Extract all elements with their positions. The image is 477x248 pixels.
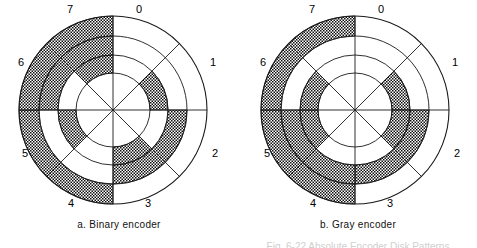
sector-label-5: 5 bbox=[17, 148, 33, 159]
sector-label-7: 7 bbox=[62, 4, 78, 15]
sector-label-2: 2 bbox=[449, 148, 465, 159]
sector-label-2: 2 bbox=[207, 148, 223, 159]
gray-encoder-caption: b. Gray encoder bbox=[239, 219, 477, 230]
encoder-segment bbox=[300, 71, 329, 110]
binary-encoder-caption: a. Binary encoder bbox=[0, 219, 238, 230]
encoder-segment bbox=[58, 110, 87, 149]
sector-label-0: 0 bbox=[373, 4, 389, 15]
sector-label-3: 3 bbox=[140, 198, 156, 209]
sector-label-5: 5 bbox=[259, 148, 275, 159]
sector-label-7: 7 bbox=[304, 4, 320, 15]
gray-encoder-disk: 01234567 bbox=[239, 0, 477, 218]
binary-disk-graphic bbox=[0, 0, 238, 218]
sector-label-4: 4 bbox=[63, 198, 79, 209]
encoder-segment bbox=[381, 71, 410, 110]
binary-encoder-disk: 01234567 bbox=[0, 0, 238, 218]
sector-label-6: 6 bbox=[255, 57, 271, 68]
sector-label-4: 4 bbox=[305, 198, 321, 209]
sector-label-1: 1 bbox=[205, 57, 221, 68]
gray-encoder-panel: 01234567 b. Gray encoder Fig. 6-22 Absol… bbox=[239, 0, 477, 244]
binary-encoder-panel: 01234567 a. Binary encoder bbox=[0, 0, 238, 244]
sector-label-6: 6 bbox=[13, 57, 29, 68]
sector-label-3: 3 bbox=[382, 198, 398, 209]
sector-label-0: 0 bbox=[131, 4, 147, 15]
encoder-segment bbox=[139, 71, 168, 110]
gray-disk-graphic bbox=[239, 0, 477, 218]
sector-label-1: 1 bbox=[447, 57, 463, 68]
cut-off-figure-line: Fig. 6-22 Absolute Encoder Disk Patterns bbox=[239, 241, 477, 248]
